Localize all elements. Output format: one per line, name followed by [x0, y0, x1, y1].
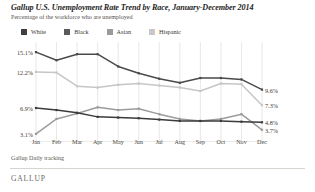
data-point-marker: [117, 84, 119, 86]
data-point-marker: [240, 78, 242, 80]
data-point-marker: [199, 90, 201, 92]
legend-swatch-icon: [107, 29, 113, 35]
data-point-marker: [179, 118, 181, 120]
value-label-right-3: 3.7%: [265, 126, 278, 133]
data-point-marker: [138, 117, 140, 119]
data-point-marker: [220, 77, 222, 79]
data-point-marker: [261, 89, 263, 91]
value-label-right-1: 7.3%: [265, 102, 278, 109]
legend-item-label: Black: [74, 28, 88, 35]
x-tick-mar: Mar: [72, 139, 82, 145]
legend-item-asian[interactable]: Asian: [107, 28, 131, 35]
data-point-marker: [199, 77, 201, 79]
data-point-marker: [138, 72, 140, 74]
data-point-marker: [138, 108, 140, 110]
value-label-left-3: 3.1%: [20, 130, 33, 137]
data-point-marker: [35, 51, 37, 53]
data-point-marker: [220, 82, 222, 84]
x-tick-jul: Jul: [156, 139, 163, 145]
x-tick-oct: Oct: [217, 139, 226, 145]
data-point-marker: [179, 120, 181, 122]
data-point-marker: [76, 112, 78, 114]
data-point-marker: [158, 84, 160, 86]
data-point-marker: [55, 59, 57, 61]
x-axis-tick-labels: JanFebMarAprMayJunJulAugSepOctNovDec: [0, 139, 315, 151]
data-point-marker: [117, 116, 119, 118]
data-point-marker: [261, 129, 263, 131]
data-point-marker: [55, 118, 57, 120]
value-label-right-0: 9.6%: [265, 86, 278, 93]
data-point-marker: [179, 86, 181, 88]
data-point-marker: [261, 104, 263, 106]
data-point-marker: [158, 113, 160, 115]
x-tick-may: May: [113, 139, 124, 145]
legend-item-hispanic[interactable]: Hispanic: [149, 28, 181, 35]
legend-item-label: White: [31, 28, 46, 35]
data-point-marker: [117, 65, 119, 67]
chart-page: Gallup U.S. Unemployment Rate Trend by R…: [0, 0, 315, 192]
value-label-left-2: 6.9%: [20, 105, 33, 112]
legend-swatch-icon: [64, 29, 70, 35]
data-point-marker: [220, 120, 222, 122]
data-point-marker: [97, 116, 99, 118]
legend-swatch-icon: [21, 29, 27, 35]
data-point-marker: [35, 133, 37, 135]
value-label-right-2: 4.8%: [265, 119, 278, 126]
x-tick-sep: Sep: [196, 139, 205, 145]
data-point-marker: [220, 118, 222, 120]
data-point-marker: [179, 82, 181, 84]
data-point-marker: [55, 109, 57, 111]
data-point-marker: [76, 53, 78, 55]
data-point-marker: [55, 71, 57, 73]
value-label-left-1: 12.2%: [17, 68, 33, 75]
gallup-logo: GALLUP: [11, 174, 46, 183]
data-point-marker: [240, 121, 242, 123]
legend-item-white[interactable]: White: [21, 28, 46, 35]
series-line-hispanic: [36, 72, 262, 105]
legend-swatch-icon: [149, 29, 155, 35]
page-subtitle: Percentage of the workforce who are unem…: [11, 14, 133, 20]
legend-item-label: Hispanic: [159, 28, 181, 35]
data-point-marker: [76, 85, 78, 87]
x-tick-feb: Feb: [52, 139, 61, 145]
data-point-marker: [240, 113, 242, 115]
x-tick-jan: Jan: [32, 139, 40, 145]
data-point-marker: [199, 120, 201, 122]
legend-item-label: Asian: [117, 28, 131, 35]
data-point-marker: [138, 82, 140, 84]
data-point-marker: [240, 83, 242, 85]
footer-divider: [10, 168, 305, 169]
data-point-marker: [35, 107, 37, 109]
data-point-marker: [97, 106, 99, 108]
x-tick-aug: Aug: [175, 139, 186, 145]
chart-legend: WhiteBlackAsianHispanic: [21, 28, 199, 35]
data-point-marker: [158, 78, 160, 80]
x-tick-dec: Dec: [257, 139, 267, 145]
data-point-marker: [97, 53, 99, 55]
value-label-left-0: 15.1%: [17, 49, 33, 56]
source-note: Gallup Daily tracking: [11, 155, 64, 161]
data-point-marker: [35, 71, 37, 73]
legend-item-black[interactable]: Black: [64, 28, 88, 35]
x-tick-apr: Apr: [93, 139, 102, 145]
data-point-marker: [261, 121, 263, 123]
page-title: Gallup U.S. Unemployment Rate Trend by R…: [11, 3, 254, 12]
x-tick-nov: Nov: [236, 139, 247, 145]
data-point-marker: [117, 109, 119, 111]
data-point-marker: [97, 86, 99, 88]
data-point-marker: [158, 119, 160, 121]
x-tick-jun: Jun: [134, 139, 142, 145]
